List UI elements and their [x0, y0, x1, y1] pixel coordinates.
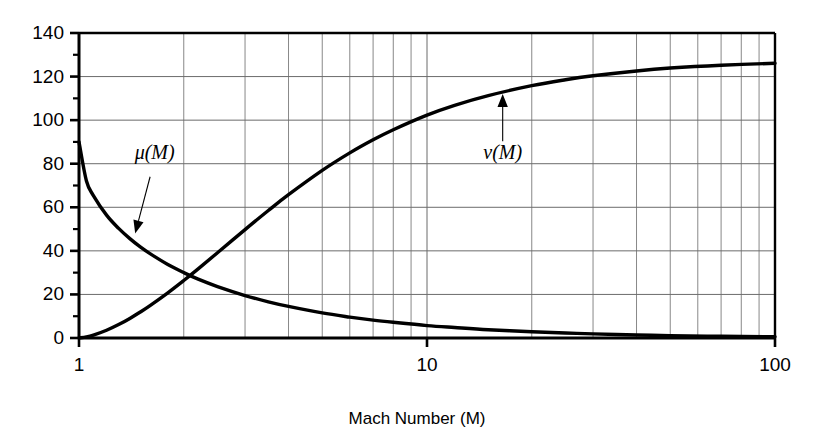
- nu-label: ν(M): [483, 141, 522, 164]
- x-axis-title: Mach Number (M): [349, 409, 486, 428]
- mu-label: μ(M): [134, 141, 175, 164]
- y-axis-tick-label: 40: [43, 240, 64, 261]
- y-axis-tick-label: 20: [43, 283, 64, 304]
- mach-angle-prandtl-meyer-chart: 020406080100120140 110100 μ(M)ν(M) Mach …: [0, 0, 820, 438]
- y-axis-tick-label: 80: [43, 153, 64, 174]
- chart-page: 020406080100120140 110100 μ(M)ν(M) Mach …: [0, 0, 820, 438]
- y-axis-tick-label: 120: [32, 66, 64, 87]
- x-axis-tick-label: 1: [74, 354, 85, 375]
- y-axis-tick-label: 140: [32, 22, 64, 43]
- x-axis-tick-label: 100: [759, 354, 791, 375]
- x-axis-tick-label: 10: [416, 354, 437, 375]
- y-axis-tick-label: 100: [32, 109, 64, 130]
- y-axis-tick-label: 60: [43, 196, 64, 217]
- y-axis-tick-label: 0: [53, 327, 64, 348]
